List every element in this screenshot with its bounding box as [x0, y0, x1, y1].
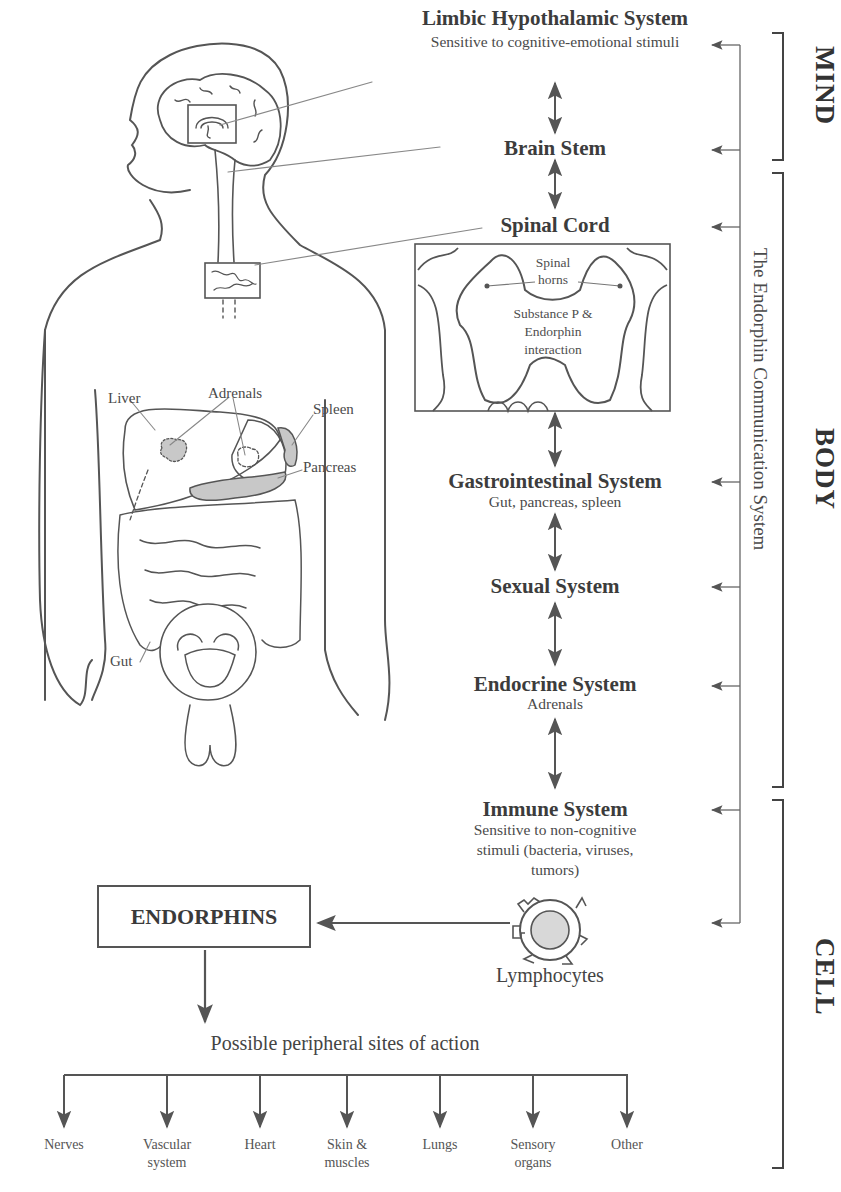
torso-right	[325, 400, 358, 715]
level-subtitle-endocrine: Adrenals	[527, 696, 583, 712]
level-subtitle-immune-line3: tumors)	[531, 862, 579, 878]
peripheral-site-sensory-organs: Sensoryorgans	[510, 1136, 555, 1171]
region-brackets	[772, 33, 783, 1168]
lymphocytes-label: Lymphocytes	[496, 965, 604, 985]
diagram-artwork	[0, 0, 841, 1192]
anatomy-label-spleen: Spleen	[313, 402, 354, 417]
spleen-shape	[278, 428, 297, 467]
spinal-horns-label-line2: horns	[538, 273, 568, 287]
level-subtitle-immune-line1: Sensitive to non-cognitive	[474, 822, 637, 838]
level-title-gastrointestinal: Gastrointestinal System	[448, 471, 662, 492]
peripheral-site-lungs: Lungs	[423, 1136, 458, 1154]
peripheral-branch-tree	[64, 1075, 628, 1127]
region-label-mind: MIND	[811, 46, 838, 125]
level-subtitle-limbic: Sensitive to cognitive-emotional stimuli	[431, 34, 679, 50]
level-title-immune: Immune System	[482, 799, 627, 820]
body-bracket	[772, 173, 783, 787]
anatomy-label-gut: Gut	[110, 654, 133, 669]
left-arm	[39, 330, 92, 705]
mind-bracket	[772, 33, 783, 160]
brain-outline	[158, 74, 281, 166]
cell-bracket	[772, 800, 783, 1168]
torso-left	[92, 390, 105, 700]
region-label-cell: CELL	[811, 938, 838, 1016]
level-title-brain-stem: Brain Stem	[504, 138, 606, 159]
spinal-horns-label-line1: Spinal	[536, 256, 571, 270]
peripheral-site-other: Other	[611, 1136, 643, 1154]
level-title-sexual: Sexual System	[491, 576, 620, 597]
anatomy-label-adrenals: Adrenals	[208, 386, 262, 401]
level-title-endocrine: Endocrine System	[474, 674, 637, 695]
peripheral-site-skin-muscles: Skin &muscles	[324, 1136, 369, 1171]
anatomy-label-liver: Liver	[108, 391, 140, 406]
anatomy-label-pancreas: Pancreas	[303, 460, 356, 475]
head-outline	[128, 44, 390, 720]
reproductive-inset-circle	[160, 604, 256, 700]
communication-system-label: The Endorphin Communication System	[751, 248, 770, 550]
spinal-cord-line	[215, 150, 235, 262]
spinal-inset-small	[205, 263, 260, 298]
level-subtitle-immune-line2: stimuli (bacteria, viruses,	[477, 842, 634, 858]
region-label-body: BODY	[811, 428, 838, 510]
level-title-spinal-cord: Spinal Cord	[500, 215, 609, 236]
interaction-label-line3: interaction	[524, 343, 582, 357]
lymphocyte-icon	[513, 898, 587, 964]
interaction-label-line2: Endorphin	[525, 325, 582, 339]
communication-axis	[712, 45, 740, 923]
peripheral-sites-title: Possible peripheral sites of action	[211, 1033, 480, 1053]
level-title-limbic: Limbic Hypothalamic System	[422, 8, 688, 29]
peripheral-site-vascular-system: Vascularsystem	[143, 1136, 191, 1171]
interaction-label-line1: Substance P &	[514, 307, 593, 321]
peripheral-site-heart: Heart	[244, 1136, 275, 1154]
peripheral-site-nerves: Nerves	[44, 1136, 84, 1154]
limbic-inset-box	[188, 105, 236, 143]
level-subtitle-gastrointestinal: Gut, pancreas, spleen	[489, 494, 622, 510]
endorphins-box: ENDORPHINS	[97, 885, 311, 948]
